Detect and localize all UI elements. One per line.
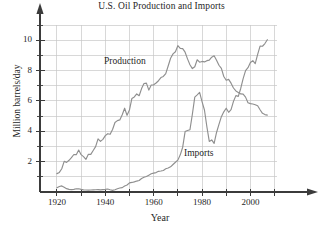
x-axis-title: Year [40,212,280,223]
series-line-production [57,46,267,174]
x-tick-label: 1980 [185,197,219,207]
y-tick-label: 2 [10,156,32,166]
axis-lines [36,3,318,196]
x-tick-label: 1920 [40,197,74,207]
x-tick-label: 2000 [233,197,267,207]
x-tick-label: 1940 [88,197,122,207]
y-tick-label: 10 [10,34,32,44]
y-tick-label: 4 [10,125,32,135]
grid-lines [40,25,277,192]
chart-figure: U.S. Oil Production and Imports Year Mil… [0,0,323,233]
y-tick-label: 8 [10,65,32,75]
series-label-production: Production [104,56,146,66]
x-tick-label: 1960 [137,197,171,207]
y-tick-label: 6 [10,95,32,105]
data-series [57,40,267,191]
series-line-imports [57,40,267,191]
axis-ticks [36,25,275,196]
series-label-imports: Imports [184,148,214,158]
